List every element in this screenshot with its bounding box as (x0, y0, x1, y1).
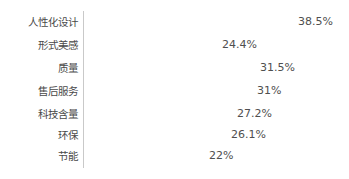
category-label: 形式美感 (0, 40, 78, 51)
category-label: 人性化设计 (0, 17, 78, 28)
plot-area: 人性化设计 38.5% 形式美感 24.4% 质量 31.5% 售后服务 (0, 0, 349, 179)
bar-container (84, 152, 203, 160)
category-label: 环保 (0, 130, 78, 141)
bar-container (84, 110, 231, 118)
bar-container (84, 18, 292, 26)
value-label: 27.2% (237, 107, 272, 121)
bar-row: 环保 26.1% (0, 124, 349, 146)
category-label: 节能 (0, 151, 78, 162)
bar-container (84, 87, 251, 95)
bar-row: 形式美感 24.4% (0, 34, 349, 56)
bar-container (84, 64, 254, 72)
category-label: 质量 (0, 63, 78, 74)
bar-row: 人性化设计 38.5% (0, 11, 349, 33)
value-label: 31.5% (260, 61, 295, 75)
value-label: 26.1% (231, 128, 266, 142)
bar-row: 科技含量 27.2% (0, 103, 349, 125)
category-label: 科技含量 (0, 109, 78, 120)
category-label: 售后服务 (0, 86, 78, 97)
bar-container (84, 131, 225, 139)
value-label: 24.4% (222, 38, 257, 52)
bar-row: 质量 31.5% (0, 57, 349, 79)
value-label: 31% (257, 84, 281, 98)
bar-container (84, 41, 216, 49)
bar-row: 售后服务 31% (0, 80, 349, 102)
horizontal-bar-chart: 人性化设计 38.5% 形式美感 24.4% 质量 31.5% 售后服务 (0, 0, 349, 179)
value-label: 38.5% (298, 15, 333, 29)
value-label: 22% (209, 149, 233, 163)
bar-row: 节能 22% (0, 145, 349, 167)
